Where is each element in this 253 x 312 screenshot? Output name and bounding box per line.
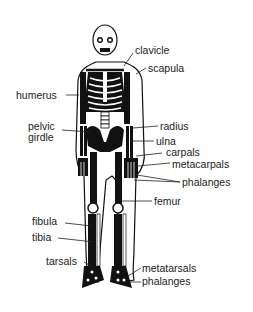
label-metatarsals: metatarsals xyxy=(142,263,196,274)
label-clavicle: clavicle xyxy=(135,45,169,56)
label-phalanges-hand: phalanges xyxy=(182,177,230,188)
label-humerus: humerus xyxy=(16,90,57,101)
label-pelvic-girdle-line2: girdle xyxy=(28,132,54,143)
label-fibula: fibula xyxy=(32,216,57,227)
label-femur: femur xyxy=(154,196,181,207)
label-tarsals: tarsals xyxy=(46,256,77,267)
label-tibia: tibia xyxy=(32,232,51,243)
label-radius: radius xyxy=(160,121,189,132)
skeleton-illustration xyxy=(0,0,253,312)
label-scapula: scapula xyxy=(148,63,184,74)
label-phalanges-foot: phalanges xyxy=(142,276,190,287)
skeleton-diagram: clavicle scapula humerus pelvic girdle r… xyxy=(0,0,253,312)
label-carpals: carpals xyxy=(166,147,200,158)
label-metacarpals: metacarpals xyxy=(172,159,229,170)
